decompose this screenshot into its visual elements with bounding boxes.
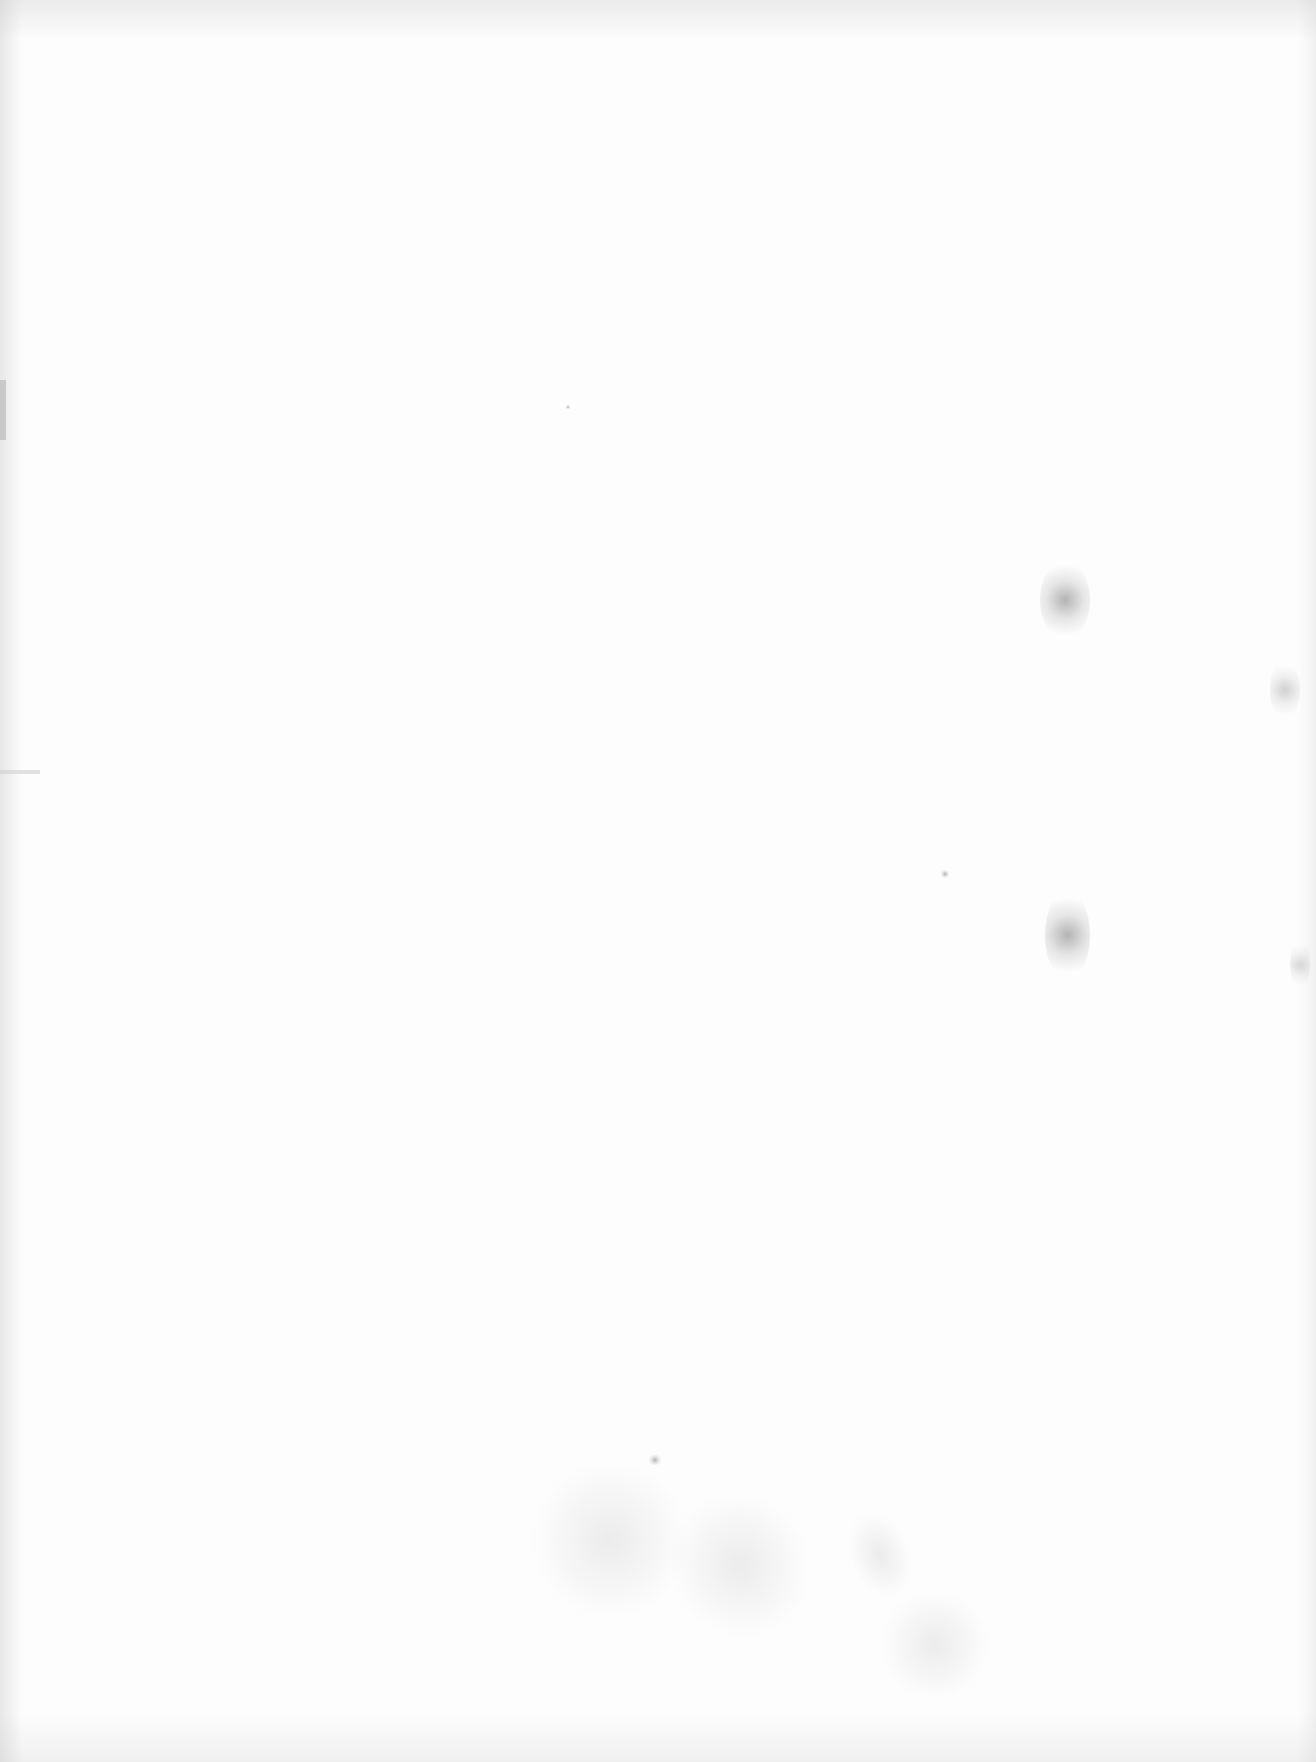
scan-speckle — [1045, 890, 1090, 980]
scan-speckle — [565, 405, 571, 409]
scan-smudge — [880, 1590, 990, 1700]
blank-scanned-page — [0, 0, 1316, 1762]
scan-edge-mark — [0, 380, 6, 440]
scan-speckle — [1290, 940, 1310, 990]
scan-speckle — [1270, 660, 1300, 720]
scan-speckle — [648, 1455, 662, 1465]
scan-speckle — [1040, 560, 1090, 640]
scan-speckle — [940, 870, 950, 878]
scan-edge-mark — [0, 770, 40, 774]
scan-smudge — [836, 1502, 923, 1607]
